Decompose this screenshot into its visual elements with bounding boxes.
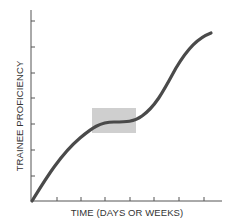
learning-curve-chart: TIME (DAYS OR WEEKS) TRAINEE PROFICIENCY [0, 0, 236, 224]
y-axis-label: TRAINEE PROFICIENCY [14, 60, 25, 171]
y-axis-ticks [31, 21, 35, 176]
x-axis-ticks [57, 197, 204, 201]
x-axis-label: TIME (DAYS OR WEEKS) [71, 207, 184, 218]
